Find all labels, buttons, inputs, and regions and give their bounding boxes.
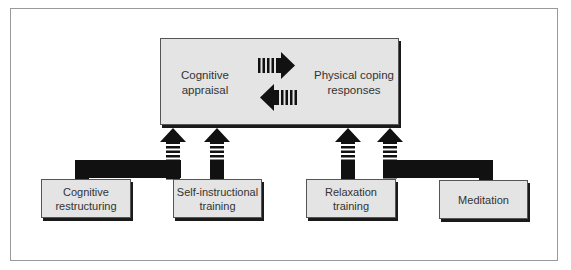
- right-arrow-icon: [258, 52, 295, 79]
- label-line: Self-instructional: [177, 185, 258, 199]
- label-line: Meditation: [458, 193, 509, 207]
- center-box: Cognitive appraisal Physical coping resp…: [160, 38, 399, 125]
- label-line: training: [177, 199, 258, 213]
- box-self-instructional-training: Self-instructional training: [173, 179, 262, 218]
- up-arrow-icon: [204, 128, 230, 180]
- label-line: Relaxation: [325, 185, 377, 199]
- connector-meditation: [383, 160, 493, 181]
- up-arrow-icon: [335, 128, 361, 180]
- bidirectional-arrows: [161, 39, 400, 126]
- label-line: restructuring: [55, 199, 116, 213]
- connector-cognitive-restructuring: [75, 160, 181, 180]
- label-line: Cognitive: [55, 185, 116, 199]
- label-line: training: [325, 199, 377, 213]
- box-relaxation-training: Relaxation training: [306, 179, 396, 218]
- left-arrow-icon: [260, 84, 297, 111]
- box-meditation: Meditation: [439, 180, 528, 219]
- box-cognitive-restructuring: Cognitive restructuring: [41, 179, 131, 218]
